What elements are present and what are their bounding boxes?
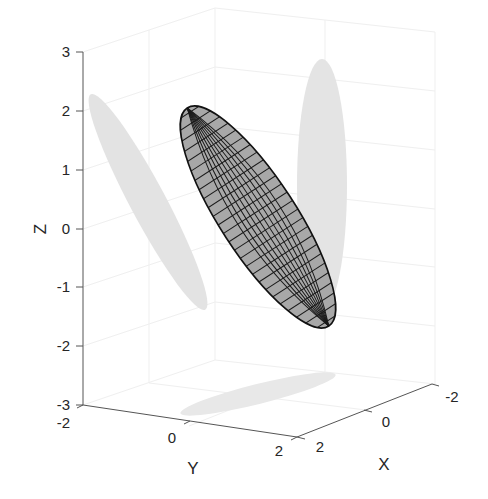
z-axis-label: Z — [31, 224, 50, 234]
z-tick: 3 — [62, 43, 70, 60]
z-tick: -2 — [57, 337, 70, 354]
y-tick: -2 — [57, 414, 70, 431]
y-tick: 2 — [275, 442, 283, 459]
plot-canvas: 3 2 1 0 -1 -2 -3 -2 0 2 2 0 -2 Z Y X — [0, 0, 488, 499]
x-axis-label: X — [378, 455, 389, 474]
x-tick: 2 — [316, 438, 324, 455]
z-tick: -1 — [57, 278, 70, 295]
z-tick: 2 — [62, 102, 70, 119]
z-tick: 0 — [62, 220, 70, 237]
x-tick: 0 — [382, 413, 390, 430]
y-tick-labels: -2 0 2 — [57, 414, 284, 459]
z-tick: 1 — [62, 161, 70, 178]
y-tick: 0 — [168, 429, 176, 446]
x-tick: -2 — [445, 388, 458, 405]
y-axis-label: Y — [187, 459, 198, 478]
projection-xy-shadow — [178, 365, 338, 423]
z-tick: -3 — [57, 396, 70, 413]
z-tick-labels: 3 2 1 0 -1 -2 -3 — [57, 43, 70, 413]
